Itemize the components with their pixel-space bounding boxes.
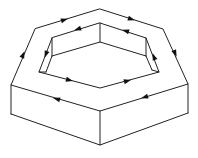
arrow-outer-top-right-icon	[127, 16, 135, 23]
arrow-inner-top-left-icon	[73, 26, 81, 33]
arrow-inner-left-icon	[42, 50, 49, 58]
inner-hole-rim	[39, 23, 159, 88]
arrow-outer-front-left-icon	[52, 95, 60, 102]
arrow-outer-top-left-icon	[60, 16, 68, 23]
inner-right-floor-edge	[146, 56, 152, 70]
arrow-inner-bottom-left-icon	[65, 77, 73, 84]
inner-left-floor-edge	[46, 56, 52, 72]
arrow-inner-bottom-right-icon	[123, 78, 131, 85]
hexagonal-ring-diagram	[0, 0, 198, 158]
arrow-outer-front-right-icon	[140, 94, 148, 101]
arrow-inner-right-icon	[150, 52, 157, 60]
inner-floor-back-edges	[52, 42, 146, 56]
